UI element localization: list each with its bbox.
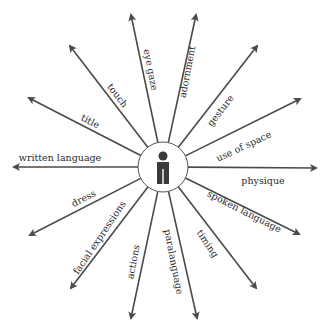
label-dress: dress	[69, 187, 97, 209]
arrow-touch	[70, 46, 148, 147]
label-actions: actions	[124, 244, 141, 280]
label-spoken-language: spoken language	[206, 188, 284, 235]
label-eye-gaze: eye gaze	[142, 48, 161, 92]
label-physique: physique	[241, 175, 285, 186]
label-gesture: gesture	[205, 92, 236, 128]
arrow-physique	[188, 167, 316, 168]
person-icon	[157, 152, 169, 185]
label-timing: timing	[195, 227, 222, 259]
label-paralanguage: paralanguage	[162, 228, 186, 296]
center-node	[138, 142, 188, 192]
label-adornment: adornment	[177, 45, 198, 99]
radial-diagram: written languagetitletoucheye gazeadornm…	[0, 0, 324, 328]
communication-diagram: written languagetitletoucheye gazeadornm…	[0, 0, 324, 328]
label-use-of-space: use of space	[214, 128, 273, 163]
label-title: title	[79, 112, 102, 131]
label-written-language: written language	[19, 152, 102, 163]
